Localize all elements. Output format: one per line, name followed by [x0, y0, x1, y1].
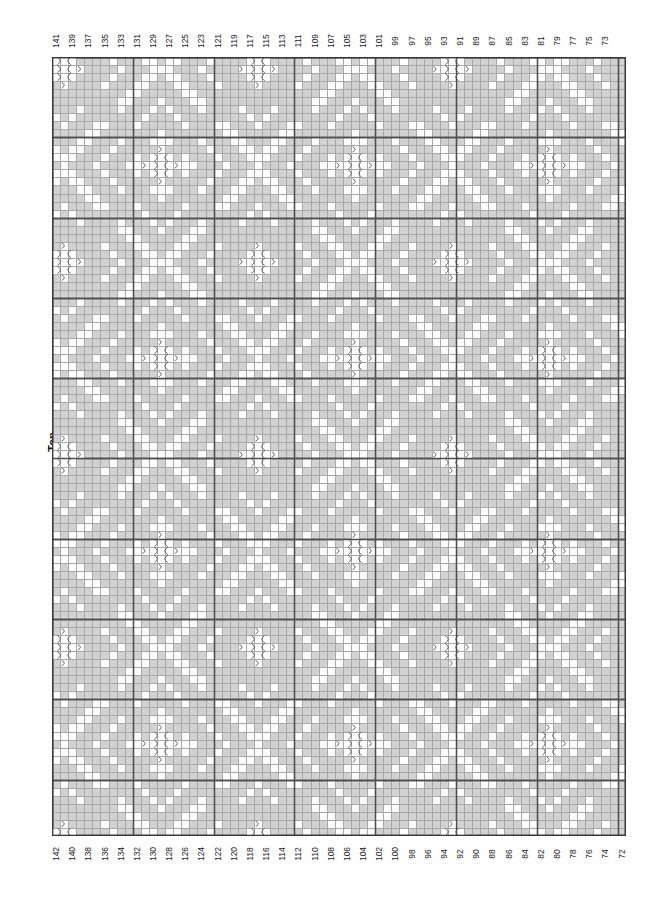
col-label-top-73: 73: [590, 26, 620, 56]
column-number-rail-top: 1411391371351331311291271251231211191171…: [52, 26, 626, 56]
column-number-rail-bottom: 1421401381361341321301281261241221201181…: [52, 839, 626, 869]
chart-root: Top 141139137135133131129127125123121119…: [0, 0, 658, 905]
pattern-grid[interactable]: [52, 57, 626, 836]
pattern-grid-canvas[interactable]: [52, 57, 626, 836]
col-label-bottom-72: 72: [607, 839, 637, 869]
